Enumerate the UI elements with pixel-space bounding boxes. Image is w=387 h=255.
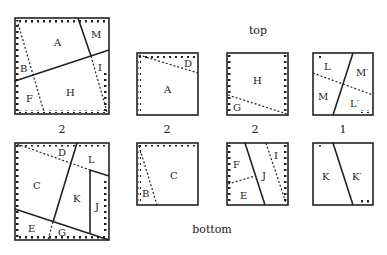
count-top-lm: 1 — [340, 123, 347, 136]
svg-text:H: H — [66, 87, 75, 98]
svg-text:D: D — [58, 147, 66, 158]
svg-text:F: F — [26, 93, 33, 104]
svg-text:B: B — [142, 188, 149, 199]
svg-text:J: J — [94, 201, 99, 212]
puzzle-diagram: top bottom A M B I F H 2 D A 2 H G 2 — [0, 0, 387, 255]
svg-text:A: A — [53, 37, 62, 48]
piece-top-a: D A — [137, 53, 198, 115]
svg-text:M′: M′ — [356, 67, 369, 78]
svg-text:C: C — [33, 180, 41, 191]
svg-text:E: E — [28, 223, 35, 234]
svg-text:G: G — [58, 227, 66, 238]
count-top-big: 2 — [59, 123, 66, 136]
svg-text:K′: K′ — [352, 171, 362, 182]
svg-text:B: B — [20, 63, 27, 74]
svg-text:I: I — [98, 62, 102, 73]
svg-text:E: E — [240, 190, 247, 201]
svg-text:C: C — [170, 170, 178, 181]
piece-bottom-c: C B — [137, 143, 198, 205]
svg-text:M: M — [318, 91, 328, 102]
piece-bottom-big: D L C K J E G — [15, 143, 109, 240]
svg-text:L: L — [324, 61, 331, 72]
piece-top-lm: L M′ M L′ — [313, 53, 373, 115]
svg-text:H: H — [253, 75, 262, 86]
svg-text:K: K — [322, 171, 330, 182]
svg-text:L: L — [88, 154, 95, 165]
svg-text:D: D — [184, 58, 192, 69]
svg-text:J: J — [261, 170, 266, 181]
svg-text:I: I — [274, 150, 278, 161]
svg-text:F: F — [233, 159, 240, 170]
svg-text:M: M — [91, 29, 101, 40]
svg-text:G: G — [233, 102, 241, 113]
svg-text:A: A — [163, 84, 172, 95]
heading-bottom: bottom — [192, 223, 232, 236]
piece-bottom-k: K K′ — [313, 143, 373, 205]
count-top-a: 2 — [164, 123, 171, 136]
count-top-h: 2 — [252, 123, 259, 136]
heading-top: top — [249, 24, 267, 37]
piece-bottom-fej: F I J E — [227, 143, 288, 205]
piece-top-big: A M B I F H — [15, 18, 109, 114]
svg-text:K: K — [73, 193, 81, 204]
piece-top-h: H G — [227, 53, 288, 115]
svg-text:L′: L′ — [350, 98, 360, 109]
